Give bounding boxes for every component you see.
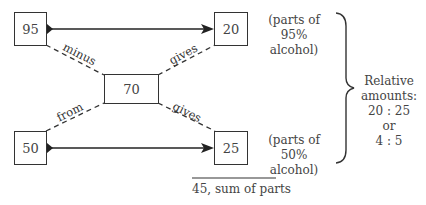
box-50: 50 <box>14 131 47 165</box>
box-20-value: 20 <box>223 22 240 37</box>
box-95-value: 95 <box>22 22 39 37</box>
relative-amounts: Relative amounts: 20 : 25 or 4 : 5 <box>356 74 422 149</box>
box-25: 25 <box>214 131 248 165</box>
box-70: 70 <box>104 74 159 104</box>
sum-label: 45, sum of parts <box>192 182 291 196</box>
relative-or: or <box>356 119 422 134</box>
bottom-note: (parts of 50% alcohol) <box>254 133 334 178</box>
top-arrow-tail-icon <box>47 24 53 34</box>
relative-ratio-2: 4 : 5 <box>356 134 422 149</box>
relative-line1: Relative <box>356 74 422 89</box>
box-70-value: 70 <box>123 82 140 97</box>
relative-ratio-1: 20 : 25 <box>356 104 422 119</box>
bottom-note-line2: alcohol) <box>254 163 334 178</box>
top-note: (parts of 95% alcohol) <box>254 13 334 58</box>
bottom-arrow-tail-icon <box>47 143 53 153</box>
top-note-line2: alcohol) <box>254 43 334 58</box>
box-50-value: 50 <box>22 141 39 156</box>
brace-icon <box>336 13 354 163</box>
bottom-note-line1: (parts of 50% <box>254 133 334 163</box>
box-25-value: 25 <box>223 141 240 156</box>
top-note-line1: (parts of 95% <box>254 13 334 43</box>
relative-line2: amounts: <box>356 89 422 104</box>
box-20: 20 <box>214 12 248 46</box>
box-95: 95 <box>14 12 47 46</box>
